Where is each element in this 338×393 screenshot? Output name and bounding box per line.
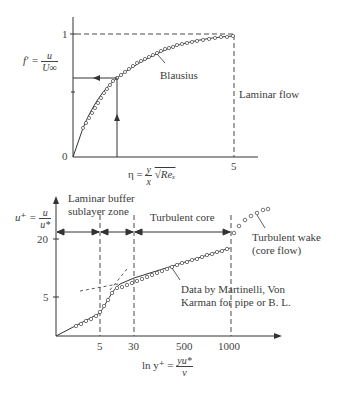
bottom-x-axis-label: ln y⁺ = yu*ν bbox=[142, 355, 193, 378]
bottom-x-tick-500: 500 bbox=[176, 340, 193, 352]
top-chart bbox=[70, 17, 258, 157]
top-y-tick-0: 0 bbox=[62, 150, 68, 162]
laminar-flow-label: Laminar flow bbox=[239, 88, 299, 101]
top-y-tick-1: 1 bbox=[62, 28, 68, 40]
turbulent-core-label: Turbulent core bbox=[150, 211, 215, 224]
blasius-label: Blausius bbox=[160, 69, 198, 82]
blasius-data-markers bbox=[81, 34, 234, 129]
bottom-x-tick-5: 5 bbox=[97, 340, 103, 352]
top-x-tick-5: 5 bbox=[231, 160, 237, 172]
bottom-y-tick-5: 5 bbox=[43, 291, 49, 303]
bottom-y-tick-20: 20 bbox=[37, 233, 48, 245]
bottom-x-tick-1000: 1000 bbox=[218, 340, 240, 352]
turbulent-wake-label: Turbulent wake (core flow) bbox=[252, 231, 321, 257]
bottom-y-axis-label: u⁺ = uu* bbox=[15, 207, 51, 230]
top-y-axis-label: f' = uU∞ bbox=[23, 50, 58, 73]
zone-arrows bbox=[57, 229, 230, 235]
top-x-axis-label: η = yx √Reₓ bbox=[128, 164, 175, 187]
laminar-zone-label: Laminar buffer sublayer zone bbox=[68, 192, 135, 218]
data-source-label: Data by Martinelli, Von Karman for pipe … bbox=[181, 283, 291, 309]
bottom-x-tick-30: 30 bbox=[128, 340, 139, 352]
